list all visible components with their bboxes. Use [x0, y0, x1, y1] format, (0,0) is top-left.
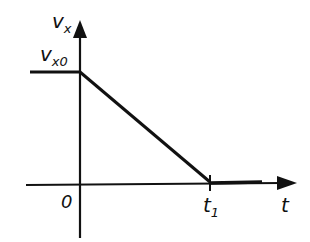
graph-svg — [0, 0, 310, 242]
zero-velocity-line — [210, 182, 262, 183]
x-axis-label: t — [281, 195, 289, 215]
x-axis-arrow-icon — [277, 176, 297, 190]
y-axis-label: vx — [52, 11, 72, 31]
initial-value-label: vx0 — [40, 44, 68, 64]
deceleration-line — [80, 72, 210, 182]
origin-label: 0 — [61, 193, 72, 211]
y-axis-label-subscript: x — [64, 21, 72, 36]
initial-value-main: v — [40, 42, 52, 66]
initial-value-subscript: x0 — [52, 54, 68, 69]
y-axis-label-main: v — [52, 9, 64, 33]
t1-label-subscript: 1 — [211, 205, 219, 220]
y-axis-arrow-icon — [73, 20, 87, 38]
t1-label-main: t — [203, 193, 211, 217]
velocity-time-diagram: vx vx0 0 t1 t — [0, 0, 310, 242]
t1-label: t1 — [203, 195, 219, 215]
